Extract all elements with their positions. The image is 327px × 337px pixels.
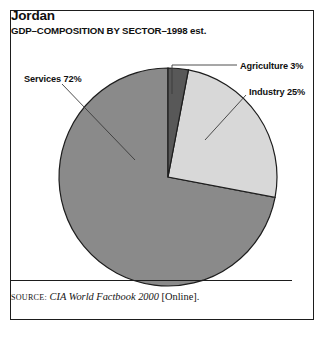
pie-label-agriculture: Agriculture 3% — [240, 61, 303, 71]
page-title: Jordan — [11, 8, 55, 23]
figure-container: Jordan GDP–COMPOSITION BY SECTOR–1998 es… — [0, 0, 327, 337]
figure-subtitle: GDP–COMPOSITION BY SECTOR–1998 est. — [11, 25, 206, 36]
source-suffix: [Online]. — [162, 291, 200, 302]
pie-label-services: Services 72% — [24, 74, 82, 84]
source-label: Source: — [11, 293, 47, 302]
source-divider — [11, 280, 292, 281]
source-title: CIA World Factbook 2000 — [50, 291, 159, 302]
source-note: Source: CIA World Factbook 2000 [Online]… — [11, 291, 199, 302]
figure-frame — [10, 10, 314, 320]
pie-label-industry: Industry 25% — [249, 87, 305, 97]
